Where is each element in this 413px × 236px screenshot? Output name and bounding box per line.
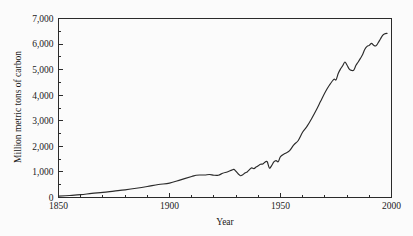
y-axis-tick-labels: 01,0002,0003,0004,0005,0006,0007,000 <box>32 14 54 203</box>
x-tick-label: 1850 <box>49 201 68 211</box>
y-tick-label: 4,000 <box>32 91 54 101</box>
y-tick-label: 1,000 <box>32 167 54 177</box>
emissions-line-chart: 01,0002,0003,0004,0005,0006,0007,000 185… <box>0 0 413 236</box>
chart-figure: 01,0002,0003,0004,0005,0006,0007,000 185… <box>0 0 413 236</box>
y-axis-title: Million metric tons of carbon <box>13 51 23 163</box>
y-tick-label: 7,000 <box>32 14 54 24</box>
x-axis-ticks <box>59 193 392 198</box>
x-axis-title: Year <box>216 217 234 227</box>
x-tick-label: 1900 <box>160 201 179 211</box>
x-axis-tick-labels: 1850190019502000 <box>49 201 401 211</box>
series-line <box>59 33 388 196</box>
y-tick-label: 5,000 <box>32 65 54 75</box>
y-tick-label: 2,000 <box>32 142 54 152</box>
x-tick-label: 2000 <box>382 201 401 211</box>
x-tick-label: 1950 <box>271 201 290 211</box>
y-axis-ticks <box>59 19 64 198</box>
y-tick-label: 3,000 <box>32 116 54 126</box>
axis-frame <box>59 19 392 198</box>
data-series-group <box>59 33 388 196</box>
y-tick-label: 6,000 <box>32 39 54 49</box>
